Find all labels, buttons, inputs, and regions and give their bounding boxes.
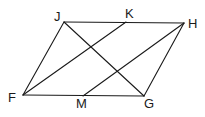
segment-JG [64, 22, 144, 96]
segment-FJ [23, 22, 64, 95]
label-F: F [8, 90, 16, 105]
label-M: M [76, 96, 87, 111]
label-G: G [144, 96, 154, 111]
segment-MH [83, 23, 184, 96]
label-J: J [54, 9, 61, 24]
parallelogram-diagram: J K H F M G [0, 0, 205, 117]
label-H: H [188, 16, 197, 31]
segment-FK [23, 22, 126, 95]
label-K: K [125, 6, 134, 21]
segment-GH [144, 23, 184, 96]
segments [23, 22, 184, 96]
